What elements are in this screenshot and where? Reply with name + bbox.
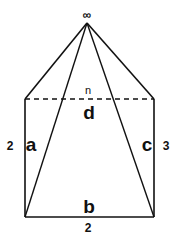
top-edge-d-label: d [83, 102, 95, 123]
apex-to-bottom-left-line [25, 23, 87, 217]
apex-infinity-label: ∞ [83, 8, 92, 22]
left-edge-a-label: a [26, 134, 37, 155]
right-edge-value-label: 3 [163, 139, 170, 153]
apex-to-top-right-line [87, 23, 154, 99]
pyramid-diagram: ∞ n d a 2 c 3 b 2 [0, 0, 178, 242]
apex-to-top-left-line [25, 23, 87, 99]
left-edge-value-label: 2 [7, 139, 14, 153]
top-edge-n-label: n [85, 84, 91, 96]
apex-to-bottom-right-line [87, 23, 154, 217]
bottom-edge-value-label: 2 [85, 221, 92, 235]
right-edge-c-label: c [142, 134, 153, 155]
bottom-edge-b-label: b [83, 196, 95, 217]
